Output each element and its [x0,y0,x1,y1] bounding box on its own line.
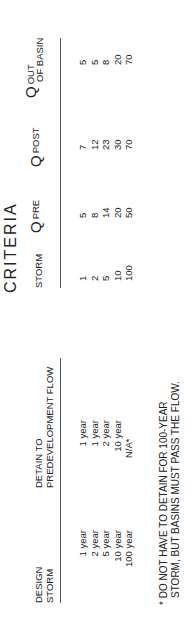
right-table-rule [60,38,61,288]
cell: 1 [77,261,89,281]
q-symbol: Q [27,155,44,167]
header-design-line2: STORM [44,567,55,603]
cell: 1 year [77,420,89,470]
cell: 20 [112,45,124,65]
header-design-line1: DESIGN [33,567,44,603]
cell: 2 year [89,530,101,578]
q-symbol: Q [27,221,44,233]
cell: 2 [89,261,101,281]
cell: 30 [112,130,124,150]
label: POST [30,127,41,153]
cell: 5 [77,198,89,218]
cell: 70 [123,45,135,65]
cell: 1 year [89,420,101,470]
detain-to-column: 1 year 1 year 2 year 10 year N/A* [77,420,135,470]
q-post-column: 7 12 23 30 70 [77,130,135,150]
cell: 5 year [100,530,112,578]
cell: 5 [89,45,101,65]
cell: 50 [123,198,135,218]
header-storm: STORM [33,254,44,288]
cell: 10 [112,261,124,281]
design-storm-column: 1 year 2 year 5 year 10 year 100 year [77,530,135,578]
cell: 14 [100,198,112,218]
cell: 23 [100,130,112,150]
footnote: * DO NOT HAVE TO DETAIN FOR 100-YEAR STO… [158,381,182,605]
label: PRE [30,200,41,220]
cell: 5 [77,45,89,65]
cell: 2 year [100,420,112,470]
footnote-line2: STORM, BUT BASINS MUST PASS THE FLOW. [170,381,182,605]
q-symbol: Q [22,86,39,98]
cell: 100 [123,261,135,281]
q-out-column: 5 5 8 20 70 [77,45,135,65]
cell: 8 [100,45,112,65]
criteria-sheet: CRITERIA DESIGN STORM DETAIN TO PREDEVEL… [0,0,195,633]
q-pre-column: 5 8 14 20 50 [77,198,135,218]
cell: 5 [100,261,112,281]
header-design-storm: DESIGN STORM [33,567,55,603]
header-detain-line2: PREDEVELOPMENT FLOW [44,367,55,488]
left-table-rule [60,358,61,603]
header-q-out: QOUT OF BASIN [25,38,45,98]
header-detain-line1: DETAIN TO [33,367,44,488]
cell: 8 [89,198,101,218]
cell: 100 year [123,530,135,578]
header-detain-to: DETAIN TO PREDEVELOPMENT FLOW [33,367,55,488]
cell: 10 year [112,420,124,470]
storm-column: 1 2 5 10 100 [77,261,135,281]
cell: 1 year [77,530,89,578]
cell: N/A* [123,420,135,470]
cell: 7 [77,130,89,150]
page-title: CRITERIA [2,202,20,293]
cell: 12 [89,130,101,150]
header-q-pre: QPRE [30,200,41,233]
cell: 10 year [112,530,124,578]
cell: 20 [112,198,124,218]
footnote-line1: * DO NOT HAVE TO DETAIN FOR 100-YEAR [158,381,170,605]
header-q-post: QPOST [30,127,41,167]
cell: 70 [123,130,135,150]
